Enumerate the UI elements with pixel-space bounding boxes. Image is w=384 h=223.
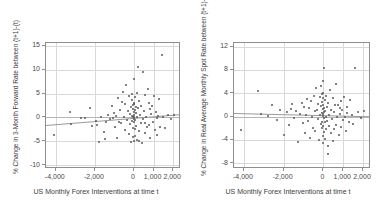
- scatter-point: [344, 116, 346, 118]
- x-tick-mark: [94, 168, 95, 171]
- gridline-horizontal: [46, 141, 179, 142]
- scatter-point: [120, 122, 122, 124]
- plot-inner-left: [46, 43, 179, 167]
- scatter-point: [240, 129, 242, 131]
- gridline-horizontal: [234, 93, 369, 94]
- scatter-point: [150, 113, 152, 115]
- scatter-point: [328, 125, 330, 127]
- scatter-point: [319, 114, 321, 116]
- scatter-point: [134, 135, 136, 137]
- scatter-point: [348, 121, 350, 123]
- scatter-point: [107, 114, 109, 116]
- scatter-point: [321, 121, 323, 123]
- scatter-point: [137, 107, 139, 109]
- scatter-point: [141, 142, 143, 144]
- scatter-point: [326, 120, 328, 122]
- gridline-horizontal: [46, 165, 179, 166]
- y-tick-mark: [42, 69, 45, 70]
- scatter-point: [332, 140, 334, 142]
- scatter-point: [304, 132, 306, 134]
- scatter-point: [340, 126, 342, 128]
- scatter-point: [139, 114, 141, 116]
- y-tick-mark: [42, 140, 45, 141]
- scatter-point: [144, 132, 146, 134]
- x-tick-mark: [55, 168, 56, 171]
- scatter-point: [152, 121, 154, 123]
- scatter-point: [288, 124, 290, 126]
- x-axis-label-left: US Monthly Forex Interventions at time t: [0, 188, 192, 195]
- gridline-horizontal: [234, 70, 369, 71]
- scatter-point: [147, 88, 149, 90]
- scatter-point: [148, 102, 150, 104]
- gridline-horizontal: [234, 140, 369, 141]
- scatter-point: [333, 111, 335, 113]
- scatter-point: [299, 113, 301, 115]
- scatter-point: [293, 117, 295, 119]
- scatter-point: [133, 116, 135, 118]
- scatter-point: [323, 131, 325, 133]
- scatter-point: [125, 84, 127, 86]
- scatter-point: [320, 85, 322, 87]
- scatter-point: [354, 67, 356, 69]
- scatter-point: [306, 98, 308, 100]
- scatter-point: [297, 141, 299, 143]
- scatter-point: [138, 100, 140, 102]
- scatter-point: [105, 121, 107, 123]
- scatter-point: [128, 95, 130, 97]
- scatter-point: [135, 125, 137, 127]
- scatter-point: [134, 96, 136, 98]
- x-tick-label: -2,000: [78, 173, 110, 180]
- scatter-point: [91, 125, 93, 127]
- scatter-point: [276, 119, 278, 121]
- x-tick-label: -4,000: [227, 173, 259, 180]
- scatter-point: [148, 124, 150, 126]
- scatter-point: [142, 118, 144, 120]
- y-tick-mark: [42, 164, 45, 165]
- scatter-point: [363, 110, 365, 112]
- x-tick-mark: [243, 168, 244, 171]
- scatter-point: [345, 130, 347, 132]
- gridline-vertical: [343, 43, 344, 167]
- x-tick-mark: [322, 168, 323, 171]
- scatter-point: [312, 127, 314, 129]
- scatter-point: [122, 91, 124, 93]
- scatter-point: [69, 111, 71, 113]
- scatter-point: [149, 108, 151, 110]
- scatter-point: [343, 96, 345, 98]
- gridline-vertical: [154, 43, 155, 167]
- scatter-point: [329, 89, 331, 91]
- plot-area-right: [233, 42, 370, 168]
- scatter-point: [159, 126, 161, 128]
- scatter-point: [286, 111, 288, 113]
- scatter-point: [170, 118, 172, 120]
- chart-panel-left: -10-5051015-4,000-2,00001,0002,000 % Cha…: [0, 0, 192, 223]
- scatter-point: [330, 109, 332, 111]
- y-axis-label-right: % Change in Real Average Monthly Spot Ra…: [200, 0, 207, 176]
- scatter-point: [151, 105, 153, 107]
- y-tick-mark: [230, 116, 233, 117]
- scatter-point: [327, 153, 329, 155]
- scatter-point: [271, 104, 273, 106]
- scatter-point: [309, 137, 311, 139]
- x-axis-label-right: US Monthly Forex Interventions at time t: [192, 188, 384, 195]
- scatter-point: [326, 106, 328, 108]
- scatter-point: [137, 66, 139, 68]
- scatter-point: [301, 102, 303, 104]
- scatter-point: [95, 120, 97, 122]
- scatter-point: [136, 92, 138, 94]
- scatter-point: [320, 123, 322, 125]
- scatter-point: [140, 122, 142, 124]
- scatter-point: [80, 117, 82, 119]
- y-tick-mark: [230, 162, 233, 163]
- scatter-point: [323, 107, 325, 109]
- scatter-point: [116, 137, 118, 139]
- gridline-vertical: [244, 43, 245, 167]
- x-tick-label: -4,000: [39, 173, 71, 180]
- scatter-point: [114, 126, 116, 128]
- scatter-point: [140, 105, 142, 107]
- plot-inner-right: [234, 43, 369, 167]
- fitted-regression-line: [46, 114, 179, 126]
- scatter-point: [334, 104, 336, 106]
- scatter-point: [335, 124, 337, 126]
- x-tick-mark: [342, 168, 343, 171]
